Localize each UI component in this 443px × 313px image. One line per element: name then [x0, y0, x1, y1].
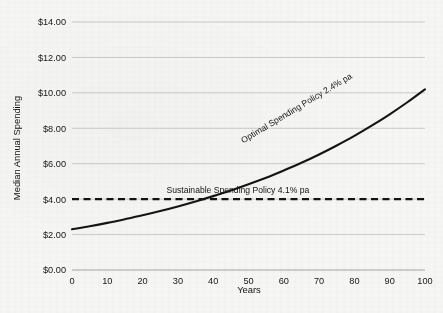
x-tick-label: 20 [137, 276, 147, 286]
x-tick-label: 30 [173, 276, 183, 286]
annotations-group: Optimal Spending Policy 2.4% paSustainab… [166, 71, 353, 195]
x-tick-label: 80 [349, 276, 359, 286]
y-tick-label: $14.00 [38, 17, 66, 27]
y-tick-label: $8.00 [43, 124, 66, 134]
optimal-policy-curve [72, 89, 425, 229]
gridlines-group [72, 22, 425, 235]
x-tick-label: 90 [385, 276, 395, 286]
y-axis-title: Median Annual Spending [11, 96, 22, 200]
spending-policy-chart: $0.00$2.00$4.00$6.00$8.00$10.00$12.00$14… [0, 0, 443, 313]
x-axis-title: Years [237, 284, 261, 295]
optimal-policy-annotation: Optimal Spending Policy 2.4% pa [239, 71, 354, 145]
x-tick-label: 100 [417, 276, 432, 286]
y-tick-label: $4.00 [43, 195, 66, 205]
y-tick-label: $0.00 [43, 265, 66, 275]
sustainable-policy-annotation: Sustainable Spending Policy 4.1% pa [166, 185, 309, 195]
y-tick-label: $6.00 [43, 159, 66, 169]
x-tick-label: 60 [279, 276, 289, 286]
y-tick-label: $2.00 [43, 230, 66, 240]
data-series-group [72, 89, 425, 229]
y-tick-label: $10.00 [38, 88, 66, 98]
x-tick-label: 40 [208, 276, 218, 286]
x-tick-label: 0 [69, 276, 74, 286]
x-tick-label: 10 [102, 276, 112, 286]
y-axis-tick-labels: $0.00$2.00$4.00$6.00$8.00$10.00$12.00$14… [38, 17, 66, 275]
y-tick-label: $12.00 [38, 53, 66, 63]
chart-canvas: $0.00$2.00$4.00$6.00$8.00$10.00$12.00$14… [0, 0, 443, 313]
x-tick-label: 70 [314, 276, 324, 286]
